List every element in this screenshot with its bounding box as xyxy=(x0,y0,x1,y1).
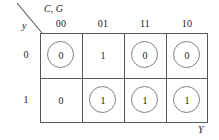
row-header-1: 1 xyxy=(18,94,34,106)
kmap-cell-r1c1[interactable]: 1 xyxy=(82,78,124,123)
cell-value-r1c2: 1 xyxy=(124,78,166,123)
column-header-2: 11 xyxy=(124,18,166,30)
kmap-cell-r1c2[interactable]: 1 xyxy=(124,78,166,123)
row-header-0: 0 xyxy=(18,49,34,61)
cell-value-r0c2: 0 xyxy=(124,33,166,78)
cell-value-r0c1: 1 xyxy=(82,33,124,78)
kmap-cell-r0c1[interactable]: 1 xyxy=(82,33,124,78)
karnaugh-map-figure: C, G y 00 01 11 10 0 1 0 1 0 0 0 xyxy=(0,0,219,140)
kmap-cell-r0c3[interactable]: 0 xyxy=(166,33,208,78)
row-variable-label: y xyxy=(22,20,26,31)
cell-value-r1c1: 1 xyxy=(82,78,124,123)
kmap-cell-r1c3[interactable]: 1 xyxy=(166,78,208,123)
cell-value-r0c3: 0 xyxy=(166,33,208,78)
kmap-cell-r0c0[interactable]: 0 xyxy=(40,33,82,78)
column-header-0: 00 xyxy=(40,18,82,30)
kmap-cell-r1c0[interactable]: 0 xyxy=(40,78,82,123)
column-header-3: 10 xyxy=(166,18,208,30)
column-variables-label: C, G xyxy=(44,3,63,14)
cell-value-r1c0: 0 xyxy=(40,78,82,123)
column-header-1: 01 xyxy=(82,18,124,30)
output-function-label: Y xyxy=(198,124,204,136)
cell-value-r1c3: 1 xyxy=(166,78,208,123)
kmap-cell-r0c2[interactable]: 0 xyxy=(124,33,166,78)
kmap-grid: 0 1 0 0 0 1 1 1 xyxy=(40,33,208,123)
cell-value-r0c0: 0 xyxy=(40,33,82,78)
